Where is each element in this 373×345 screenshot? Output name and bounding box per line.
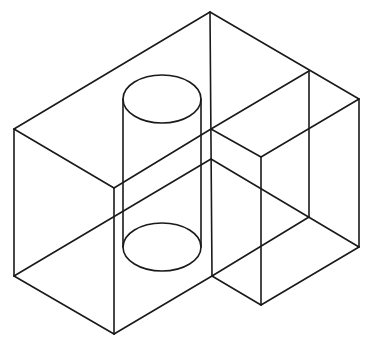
edge-center_top-step_back_top — [211, 71, 309, 129]
edge-step_front_bottom-right_bottom — [261, 247, 359, 305]
edge-apex-center_bottom — [210, 12, 212, 276]
isometric-drawing — [0, 0, 373, 345]
cylinder — [123, 75, 201, 271]
edge-center_top-step_front_top — [211, 129, 261, 157]
edge-left_top-front_top — [14, 129, 114, 188]
cylinder-top-ellipse — [123, 75, 201, 123]
wireframe-svg — [0, 0, 373, 345]
edge-left_top-apex — [14, 12, 210, 129]
edge-center_bottom-step_front_bottom — [212, 276, 261, 305]
block-edges — [14, 12, 359, 334]
cylinder-bottom-ellipse — [123, 223, 201, 271]
edge-center_step-right_bottom — [211, 159, 359, 247]
edge-left_bottom-front_bottom — [14, 276, 114, 334]
edge-left_bottom-center_step — [14, 159, 211, 276]
edge-front_bottom-center_bottom — [114, 276, 212, 334]
edge-front_top-center_top — [114, 129, 211, 188]
edge-step_front_top-right_top — [261, 99, 359, 157]
